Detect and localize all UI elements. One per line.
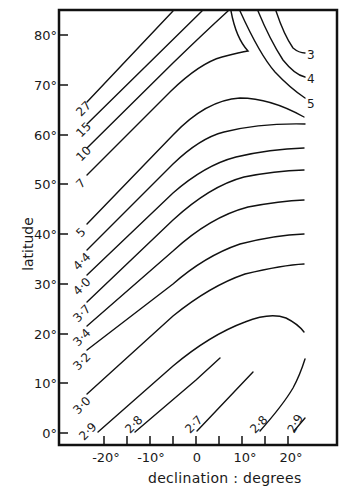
label-3-2: 3·2 <box>70 350 93 373</box>
y-tick-30: 30° <box>34 277 57 292</box>
contour-3-0 <box>87 264 304 394</box>
contour-2-7 <box>197 372 253 431</box>
label-2-9-right: 2·9 <box>284 412 306 436</box>
label-2-8-right: 2·8 <box>247 413 270 436</box>
contour-15 <box>87 11 202 124</box>
label-3-7: 3·7 <box>70 302 93 325</box>
label-5: 5 <box>73 225 88 240</box>
contour-labels-left: 27 15 10 7 5 4·4 4·0 3·7 3·4 3·2 3·0 2·9 <box>70 98 99 443</box>
y-tick-80: 80° <box>34 28 57 43</box>
contour-3 <box>276 11 305 53</box>
label-27: 27 <box>73 98 94 119</box>
contour-chart: 0° 10° 20° 30° 40° 50° 60° 70° 80° -20° … <box>0 0 346 499</box>
y-tick-20: 20° <box>34 327 57 342</box>
contour-3-4 <box>87 200 304 326</box>
y-tick-40: 40° <box>34 227 57 242</box>
label-4: 4 <box>307 72 315 86</box>
x-axis-title: declination : degrees <box>148 470 302 486</box>
label-3: 3 <box>307 48 315 62</box>
label-10: 10 <box>73 143 94 164</box>
label-3-4: 3·4 <box>70 326 93 349</box>
label-4-0: 4·0 <box>70 275 93 298</box>
y-tick-70: 70° <box>34 78 57 93</box>
contour-27 <box>87 11 173 102</box>
y-tick-0: 0° <box>42 426 57 441</box>
label-7: 7 <box>73 176 88 191</box>
contour-5-main <box>87 98 304 224</box>
x-tick-0: 0 <box>193 450 201 465</box>
y-tick-10: 10° <box>34 376 57 391</box>
label-2-8-left: 2·8 <box>122 413 145 436</box>
y-tick-60: 60° <box>34 128 57 143</box>
contour-4-0 <box>87 148 304 275</box>
contour-lines <box>87 11 305 432</box>
label-3-0: 3·0 <box>70 394 93 417</box>
x-tick-labels: -20° -10° 0 10° 20° <box>92 450 302 465</box>
y-axis <box>59 35 68 433</box>
x-axis <box>104 436 288 445</box>
contour-5-upper <box>240 11 305 98</box>
contour-labels-right: 3 4 5 <box>307 48 315 111</box>
contour-4 <box>258 11 305 77</box>
x-tick-neg20: -20° <box>92 450 120 465</box>
label-5-upper: 5 <box>307 97 315 111</box>
label-4-4: 4·4 <box>70 250 93 273</box>
y-tick-labels: 0° 10° 20° 30° 40° 50° 60° 70° 80° <box>34 28 57 441</box>
plot-frame <box>59 10 337 445</box>
label-2-9-left: 2·9 <box>76 420 99 443</box>
y-tick-50: 50° <box>34 177 57 192</box>
label-15: 15 <box>73 119 94 140</box>
x-tick-10: 10° <box>233 450 256 465</box>
contour-7 <box>87 11 248 175</box>
contour-labels-bottom: 2·8 2·7 2·8 2·9 <box>122 412 306 436</box>
contour-3-2 <box>87 234 304 350</box>
y-axis-title: latitude <box>20 204 36 284</box>
label-2-7: 2·7 <box>182 413 205 436</box>
x-tick-20: 20° <box>279 450 302 465</box>
x-tick-neg10: -10° <box>137 450 165 465</box>
